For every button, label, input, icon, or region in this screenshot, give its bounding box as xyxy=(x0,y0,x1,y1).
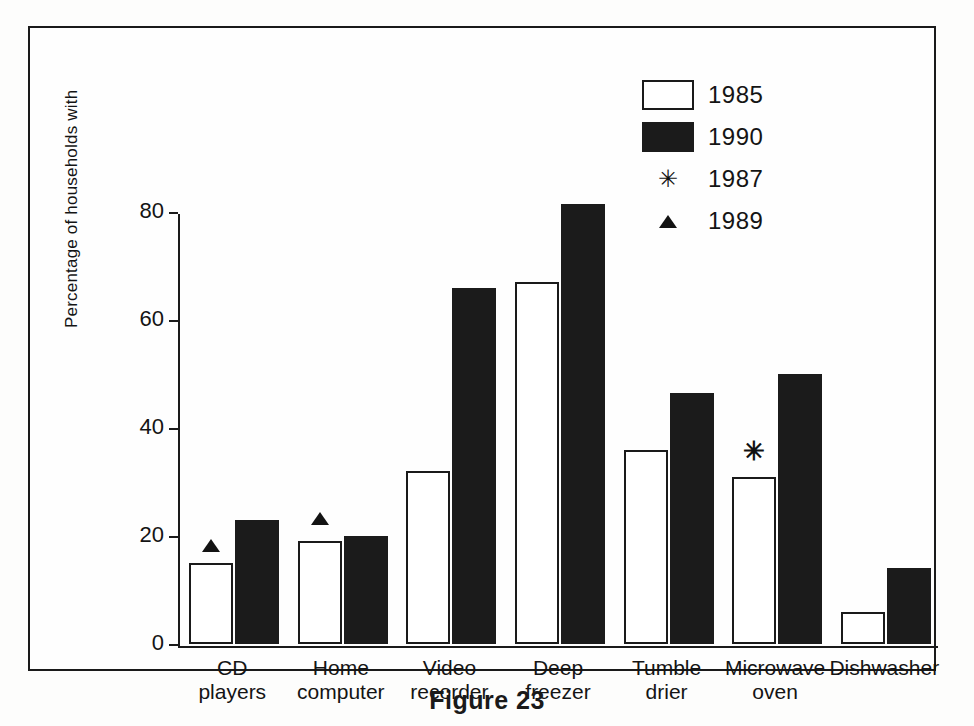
y-tick-label-80: 80 xyxy=(104,200,164,222)
bar-1990 xyxy=(344,536,388,644)
y-axis-title: Percentage of households with xyxy=(62,90,82,328)
bar-group: Dishwasher xyxy=(829,178,938,646)
figure-caption: Figure 23 xyxy=(0,686,974,715)
legend-label-1985: 1985 xyxy=(708,81,763,109)
y-tick-20 xyxy=(169,536,178,538)
bar-1985 xyxy=(732,477,776,644)
y-tick-40 xyxy=(169,428,178,430)
y-tick-80 xyxy=(169,212,178,214)
bar-group: Tumble drier xyxy=(612,178,721,646)
legend-label-1990: 1990 xyxy=(708,123,763,151)
chart-frame: 1985 1990 ✳ 1987 1989 Percentage of hous… xyxy=(28,26,936,671)
bar-group: Deep freezer xyxy=(504,178,613,646)
bar-1990 xyxy=(452,288,496,644)
bar-1985 xyxy=(624,450,668,644)
bar-1990 xyxy=(235,520,279,644)
y-tick-label-20: 20 xyxy=(104,524,164,546)
bar-1990 xyxy=(778,374,822,644)
bar-1990 xyxy=(561,204,605,644)
x-category-label: Dishwasher xyxy=(829,656,938,680)
bar-group: CD players xyxy=(178,178,287,646)
bar-group: Home computer xyxy=(287,178,396,646)
y-tick-label-60: 60 xyxy=(104,308,164,330)
bar-1990 xyxy=(670,393,714,644)
bar-1990 xyxy=(887,568,931,644)
y-tick-label-40: 40 xyxy=(104,416,164,438)
bar-group: Video recorder xyxy=(395,178,504,646)
asterisk-marker-1987: ✳ xyxy=(741,438,767,464)
legend-swatch-open-square xyxy=(642,80,694,110)
plot-area: Percentage of households with 020406080 … xyxy=(178,178,938,646)
bar-group: ✳Microwave oven xyxy=(721,178,830,646)
bar-1985 xyxy=(406,471,450,644)
figure-container: 1985 1990 ✳ 1987 1989 Percentage of hous… xyxy=(0,0,974,726)
bar-1985 xyxy=(515,282,559,644)
bar-1985 xyxy=(189,563,233,644)
triangle-marker-1989 xyxy=(202,539,220,552)
triangle-marker-1989 xyxy=(311,512,329,525)
legend-item-1990: 1990 xyxy=(642,116,882,158)
y-tick-0 xyxy=(169,644,178,646)
bar-1985 xyxy=(841,612,885,644)
legend-item-1985: 1985 xyxy=(642,74,882,116)
y-tick-label-0: 0 xyxy=(104,632,164,654)
bar-1985 xyxy=(298,541,342,644)
x-axis-line xyxy=(178,646,938,648)
legend-swatch-filled-square xyxy=(642,122,694,152)
y-tick-60 xyxy=(169,320,178,322)
